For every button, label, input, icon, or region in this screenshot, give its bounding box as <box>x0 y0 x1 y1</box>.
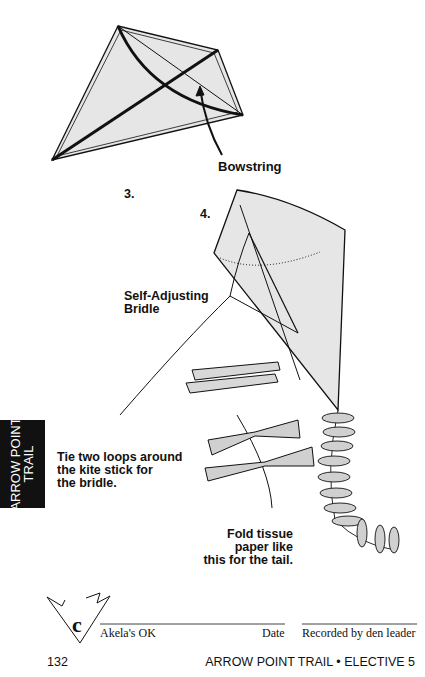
bridle-label: Self-Adjusting Bridle <box>124 290 209 316</box>
side-tab-line2: TRAIL <box>22 417 35 510</box>
kite-illustrations <box>0 0 425 677</box>
loops-instruction: Tie two loops around the kite stick for … <box>57 451 182 490</box>
kite-tail-illustration <box>318 410 399 553</box>
footer-section-title: ARROW POINT TRAIL • ELECTIVE 5 <box>205 655 415 669</box>
page-number: 132 <box>47 655 68 669</box>
badge-letter: c <box>72 612 82 638</box>
folded-tissue-illustration <box>186 362 280 393</box>
tied-loops-illustration <box>205 415 314 508</box>
akela-ok-label: Akela's OK <box>100 626 156 641</box>
recorded-by-label: Recorded by den leader <box>302 626 416 641</box>
step-3-number: 3. <box>124 188 134 201</box>
step-4-number: 4. <box>200 208 210 221</box>
tail-instruction: Fold tissue paper like this for the tail… <box>195 528 293 567</box>
bowstring-label: Bowstring <box>218 160 282 173</box>
kite-step3-illustration <box>52 26 243 160</box>
date-label: Date <box>262 626 285 641</box>
side-section-tab: ARROW POINT TRAIL <box>0 420 45 508</box>
